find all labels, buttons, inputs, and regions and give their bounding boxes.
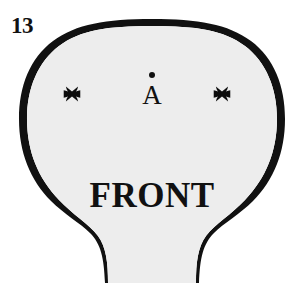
artifact-outline-svg xyxy=(0,0,304,283)
x-mark-left-icon xyxy=(63,85,81,103)
point-a-label: A xyxy=(132,80,172,110)
point-a-dot-icon xyxy=(149,72,155,78)
figure-number-label: 13 xyxy=(11,14,33,37)
front-label: FRONT xyxy=(0,177,304,215)
artifact-body-fill xyxy=(27,26,277,283)
figure-13-drawing: 13 A FRONT xyxy=(0,0,304,283)
x-mark-right-icon xyxy=(213,85,231,103)
point-a-annotation: A xyxy=(132,70,172,112)
